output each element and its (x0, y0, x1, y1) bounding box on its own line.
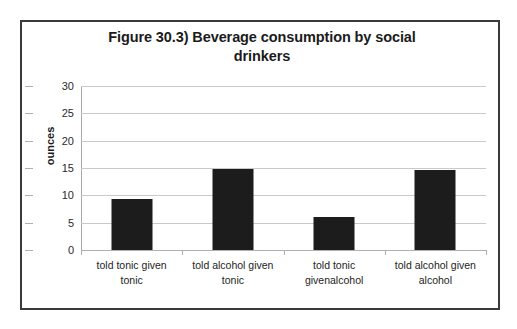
x-axis-ticks (81, 250, 486, 256)
chart-title-line-1: Figure 30.3) Beverage consumption by soc… (72, 28, 452, 47)
y-tick-label-25: 25 (44, 107, 74, 119)
x-tick-label-line: tonic (81, 273, 182, 288)
bar (111, 199, 152, 250)
y-tick-mark-10 (25, 195, 33, 196)
y-tick-mark-25 (25, 113, 33, 114)
x-tick-label-line: alcohol (385, 273, 486, 288)
bar (212, 169, 253, 250)
x-tick-label-line: givenalcohol (284, 273, 385, 288)
y-tick-mark-0 (25, 250, 33, 251)
x-tick-mark (81, 250, 82, 255)
x-tick-label-line: told alcohol given (182, 258, 283, 273)
bar-slot (385, 86, 486, 250)
y-tick-label-5: 5 (44, 217, 74, 229)
bar-slot (284, 86, 385, 250)
figure-frame: Figure 30.3) Beverage consumption by soc… (20, 20, 500, 310)
y-axis-tick-labels: 051015202530 (36, 86, 74, 250)
bar (314, 217, 355, 250)
y-tick-mark-15 (25, 168, 33, 169)
y-tick-label-30: 30 (44, 80, 74, 92)
bar-slot (81, 86, 182, 250)
x-tick-label-line: told alcohol given (385, 258, 486, 273)
x-tick-mark (182, 250, 183, 255)
x-tick-label: told alcohol giventonic (182, 258, 283, 288)
x-tick-label-line: told tonic (284, 258, 385, 273)
y-tick-label-0: 0 (44, 244, 74, 256)
x-tick-mark (486, 250, 487, 255)
x-tick-label-line: tonic (182, 273, 283, 288)
x-tick-label: told tonicgivenalcohol (284, 258, 385, 288)
bar (415, 170, 456, 250)
y-tick-mark-5 (25, 223, 33, 224)
y-tick-label-10: 10 (44, 189, 74, 201)
x-tick-mark (385, 250, 386, 255)
y-tick-mark-30 (25, 86, 33, 87)
chart-title-line-2: drinkers (72, 47, 452, 66)
y-tick-label-20: 20 (44, 135, 74, 147)
x-tick-mark (284, 250, 285, 255)
y-tick-label-15: 15 (44, 162, 74, 174)
x-tick-label-line: told tonic given (81, 258, 182, 273)
bar-slot (182, 86, 283, 250)
x-tick-label: told alcohol givenalcohol (385, 258, 486, 288)
plot-area (81, 86, 486, 250)
x-tick-label: told tonic giventonic (81, 258, 182, 288)
x-axis-tick-labels: told tonic giventonictold alcohol givent… (81, 258, 486, 302)
y-tick-mark-20 (25, 141, 33, 142)
chart-title: Figure 30.3) Beverage consumption by soc… (72, 28, 452, 66)
